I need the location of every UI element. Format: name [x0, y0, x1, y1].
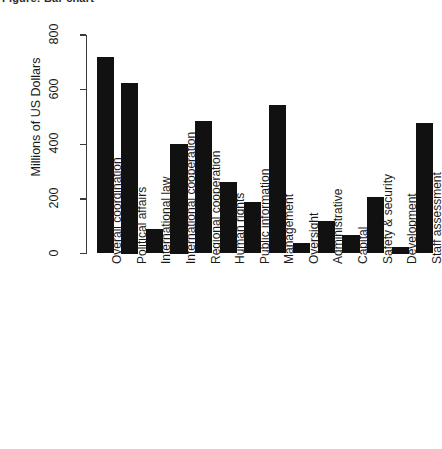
- y-axis-tick: [80, 198, 86, 199]
- y-axis-line: [86, 35, 87, 254]
- y-axis-tick: [80, 144, 86, 145]
- y-axis-tick: [80, 34, 86, 35]
- y-axis-tick-label: 0: [47, 233, 61, 273]
- y-axis-tick-label: 200: [47, 178, 61, 218]
- plot-area: 0200400600800Overall coordinationPolitic…: [0, 0, 442, 449]
- y-axis-tick: [80, 253, 86, 254]
- y-axis-tick-label: 800: [47, 14, 61, 54]
- x-axis-tick-label: Staff assessment: [430, 172, 442, 264]
- bar-chart: Figure: Bar chart Millions of US Dollars…: [0, 0, 442, 449]
- y-axis-tick-label: 600: [47, 69, 61, 109]
- y-axis-tick: [80, 89, 86, 90]
- y-axis-tick-label: 400: [47, 123, 61, 163]
